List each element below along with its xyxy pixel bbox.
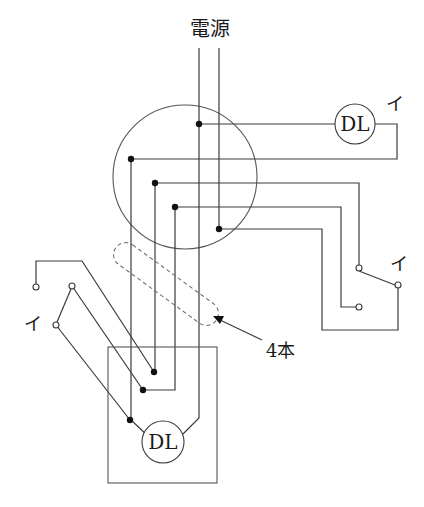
left-switch-wires (36, 261, 154, 420)
lamp-label: DL (340, 112, 369, 136)
lamp-lower-box: DL (142, 421, 184, 463)
wiring-diagram: 電源 (0, 0, 424, 507)
wire-bundle-marker (109, 238, 223, 330)
power-wires (183, 48, 219, 434)
lamp-upper-right: DL (335, 104, 375, 144)
wire-to-lower-lamp (131, 159, 149, 437)
box-wires (143, 183, 175, 390)
junction-box-circle (113, 105, 257, 249)
right-switch-label: イ (390, 253, 408, 274)
power-source-label: 電源 (190, 17, 230, 41)
upper-lamp-switch-mark: イ (386, 93, 404, 114)
bundle-arrow (213, 316, 262, 340)
wire-count-note: 4本 (266, 340, 295, 361)
left-switch-label: イ (24, 313, 42, 334)
lamp-label: DL (148, 430, 177, 454)
